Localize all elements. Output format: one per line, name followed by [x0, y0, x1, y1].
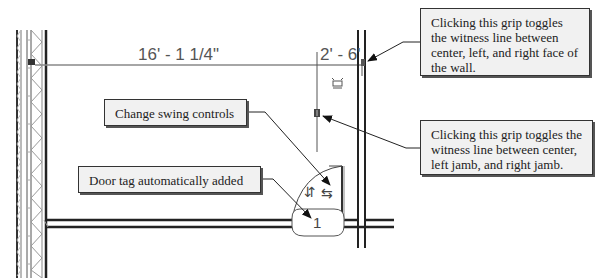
interior-wall-bottom-right: [344, 220, 394, 227]
dimension-lock-icon[interactable]: [332, 78, 343, 88]
door-width-dimension-label[interactable]: 2' - 6': [320, 46, 361, 63]
callout-door-tag: Door tag automatically added: [78, 166, 261, 193]
interior-wall-bottom-left: [44, 220, 292, 227]
callout-door-tag-text: Door tag automatically added: [89, 173, 243, 188]
leader-wall-grip: [368, 42, 420, 61]
callout-change-swing-text: Change swing controls: [115, 106, 234, 121]
primary-dimension-label[interactable]: 16' - 1 1/4": [138, 46, 219, 63]
leader-jamb-grip: [323, 116, 420, 148]
wall-witness-grip-left[interactable]: [28, 59, 35, 65]
annotated-floor-plan: 16' - 1 1/4" 2' - 6' ⇵ ⇆ 1 Change swing …: [0, 0, 608, 278]
exterior-wall-left: [17, 30, 46, 278]
callout-wall-grip-text: Clicking this grip toggles the witness l…: [431, 15, 578, 75]
flip-vertical-icon[interactable]: ⇵: [304, 185, 316, 199]
callout-wall-grip: Clicking this grip toggles the witness l…: [420, 8, 590, 76]
callout-jamb-grip-text: Clicking this grip toggles the witness l…: [431, 127, 582, 172]
callout-jamb-grip: Clicking this grip toggles the witness l…: [420, 120, 593, 175]
callout-change-swing: Change swing controls: [104, 99, 247, 126]
flip-horizontal-icon[interactable]: ⇆: [321, 186, 333, 200]
door-tag-number[interactable]: 1: [313, 215, 321, 230]
